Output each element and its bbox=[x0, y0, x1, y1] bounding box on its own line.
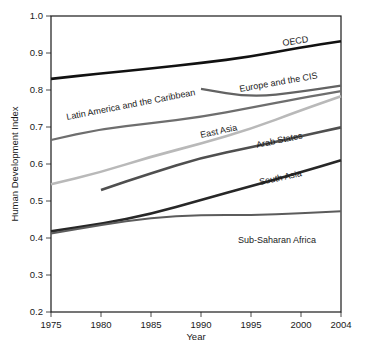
y-tick-label: 0.9 bbox=[30, 47, 43, 58]
series-label-sub-saharan-africa: Sub-Saharan Africa bbox=[238, 235, 316, 245]
y-tick-label: 0.6 bbox=[30, 158, 43, 169]
series-label-south-asia: South Asia bbox=[258, 168, 302, 187]
x-axis-title: Year bbox=[186, 331, 205, 342]
y-tick-label: 0.4 bbox=[30, 232, 43, 243]
y-tick-label: 0.3 bbox=[30, 269, 43, 280]
chart-svg: 0.20.30.40.50.60.70.80.91.0 197519801985… bbox=[0, 0, 369, 346]
y-axis-tick-group: 0.20.30.40.50.60.70.80.91.0 bbox=[30, 10, 51, 317]
plot-frame bbox=[51, 16, 341, 312]
series-line-sub-saharan-africa bbox=[51, 211, 341, 233]
x-axis-tick-group: 1975198019851990199520002004 bbox=[40, 312, 351, 330]
x-tick-label: 1990 bbox=[190, 319, 211, 330]
y-tick-label: 0.7 bbox=[30, 121, 43, 132]
x-tick-label: 1995 bbox=[240, 319, 261, 330]
x-tick-label: 1975 bbox=[40, 319, 61, 330]
x-tick-label: 2004 bbox=[330, 319, 351, 330]
y-tick-label: 0.2 bbox=[30, 306, 43, 317]
y-axis-title: Human Development Index bbox=[9, 106, 20, 221]
x-tick-label: 2000 bbox=[290, 319, 311, 330]
y-tick-label: 0.5 bbox=[30, 195, 43, 206]
hdi-line-chart: 0.20.30.40.50.60.70.80.91.0 197519801985… bbox=[0, 0, 369, 346]
x-tick-label: 1985 bbox=[140, 319, 161, 330]
series-label-arab-states: Arab States bbox=[255, 130, 304, 150]
y-tick-label: 1.0 bbox=[30, 10, 43, 21]
y-tick-label: 0.8 bbox=[30, 84, 43, 95]
x-tick-label: 1980 bbox=[90, 319, 111, 330]
series-label-latin-america-and-the-caribbean: Latin America and the Caribbean bbox=[65, 87, 196, 122]
